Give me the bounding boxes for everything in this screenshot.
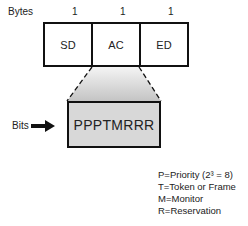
legend-item-priority: P=Priority (2³ = 8): [158, 169, 236, 181]
legend-item-token: T=Token or Frame: [158, 181, 236, 193]
arrow-right-icon: [31, 119, 57, 133]
bits-label: Bits: [12, 120, 29, 131]
access-control-bits: PPPTMRRR: [67, 101, 161, 148]
legend-item-monitor: M=Monitor: [158, 193, 236, 205]
legend-item-reservation: R=Reservation: [158, 205, 236, 217]
legend: P=Priority (2³ = 8) T=Token or Frame M=M…: [158, 169, 236, 217]
